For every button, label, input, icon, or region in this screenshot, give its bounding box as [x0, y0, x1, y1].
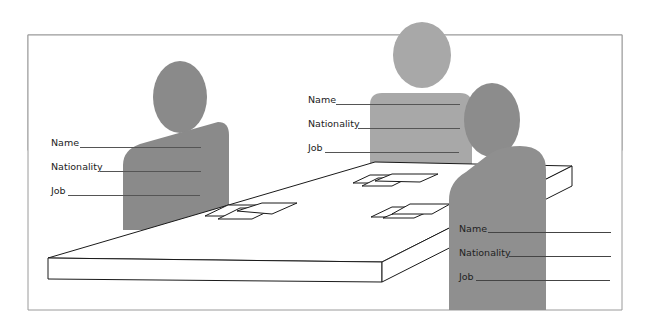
back-name-input[interactable]	[336, 104, 460, 105]
right-nationality-label: Nationality	[459, 247, 511, 258]
right-nationality-input[interactable]	[509, 256, 611, 257]
right-name-input[interactable]	[488, 232, 611, 233]
back-job-label: Job	[308, 142, 323, 153]
left-name-label: Name	[51, 137, 79, 148]
right-job-label: Job	[459, 271, 474, 282]
table-front	[48, 258, 382, 282]
back-nationality-label: Nationality	[308, 118, 360, 129]
right-person-head	[464, 83, 520, 157]
right-job-input[interactable]	[476, 280, 610, 281]
left-name-input[interactable]	[80, 147, 201, 148]
left-person-head	[153, 61, 207, 133]
back-name-label: Name	[308, 94, 336, 105]
left-nationality-input[interactable]	[100, 171, 201, 172]
back-person-head	[393, 22, 451, 88]
left-nationality-label: Nationality	[51, 161, 103, 172]
left-job-input[interactable]	[68, 195, 200, 196]
left-job-label: Job	[51, 185, 66, 196]
back-job-input[interactable]	[325, 152, 459, 153]
back-nationality-input[interactable]	[358, 128, 460, 129]
right-name-label: Name	[459, 223, 487, 234]
